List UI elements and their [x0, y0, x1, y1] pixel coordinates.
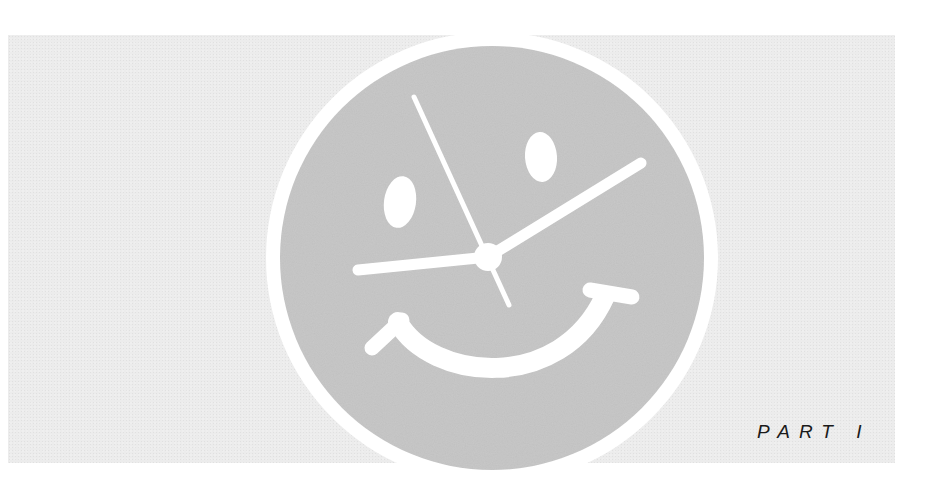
part-label: PART I: [757, 422, 870, 441]
smile-right-cap: [590, 290, 632, 297]
clock-center-pin: [474, 243, 502, 271]
smiley-clock-illustration: [0, 0, 928, 485]
